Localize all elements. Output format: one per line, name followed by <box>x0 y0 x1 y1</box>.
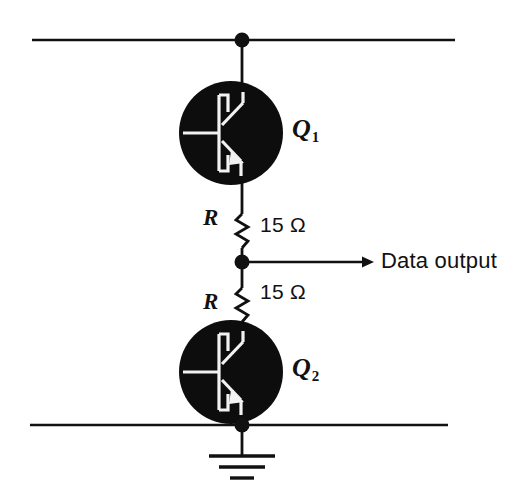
transistor-q2-label: Q2 <box>292 355 318 381</box>
resistor-r-lower-value: 15 Ω <box>260 281 306 302</box>
earth-ground-icon <box>209 456 275 478</box>
transistor-q1-label-letter: Q <box>292 114 311 143</box>
transistor-q1-label-subscript: 1 <box>312 129 320 145</box>
data-output-arrow-icon <box>362 257 374 268</box>
transistor-q2-symbol <box>179 320 283 424</box>
resistor-r-lower-label: R <box>203 290 218 313</box>
data-output-label: Data output <box>381 250 497 272</box>
resistor-r-upper-value: 15 Ω <box>260 214 306 235</box>
resistor-r-upper-symbol <box>236 214 248 248</box>
transistor-q2-label-subscript: 2 <box>312 368 320 384</box>
resistor-r-lower-symbol <box>236 288 248 322</box>
schematic-figure: Q1 Q2 R 15 Ω R 15 Ω Data output <box>0 0 518 499</box>
transistor-q1-symbol <box>179 81 283 185</box>
transistor-q2-label-letter: Q <box>292 353 311 382</box>
transistor-q1-label: Q1 <box>292 116 318 142</box>
junction-dot-supply <box>235 33 250 48</box>
junction-dot-output <box>235 255 250 270</box>
junction-dot-ground <box>235 418 250 433</box>
resistor-r-upper-label: R <box>203 206 218 229</box>
